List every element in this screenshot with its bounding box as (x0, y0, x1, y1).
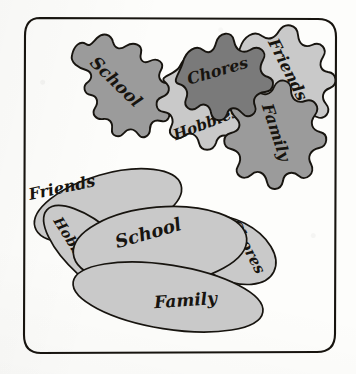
blob-top-school: School (72, 35, 172, 138)
diagram-artwork: School Friends Hobbies Family Chores Fri… (0, 0, 356, 374)
diagram-canvas: School Friends Hobbies Family Chores Fri… (0, 0, 356, 374)
